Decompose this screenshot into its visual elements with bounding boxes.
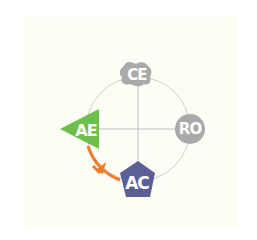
kolb-cycle-diagram: CE RO AE AC bbox=[0, 0, 257, 240]
node-ae[interactable]: AE bbox=[60, 109, 99, 149]
node-ae-label: AE bbox=[75, 121, 96, 140]
node-ce[interactable]: CE bbox=[120, 62, 151, 86]
node-ac[interactable]: AC bbox=[120, 161, 155, 197]
node-ro[interactable]: RO bbox=[175, 114, 205, 144]
node-ce-label: CE bbox=[127, 66, 147, 84]
node-ro-label: RO bbox=[179, 120, 202, 138]
node-ac-label: AC bbox=[125, 173, 149, 193]
arrow-ac-to-ae bbox=[88, 146, 120, 180]
